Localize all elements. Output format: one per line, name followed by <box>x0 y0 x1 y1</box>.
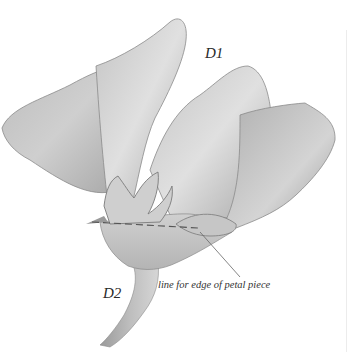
page-edge-divider <box>346 30 347 352</box>
flower-diagram: D1 D2 line for edge of petal piece <box>0 0 352 352</box>
label-d2: D2 <box>103 285 121 302</box>
flower-illustration <box>0 0 352 352</box>
label-d1: D1 <box>205 45 223 62</box>
stem <box>100 262 158 347</box>
petal-far-right <box>226 103 335 228</box>
annotation-edge-line: line for edge of petal piece <box>158 279 270 290</box>
